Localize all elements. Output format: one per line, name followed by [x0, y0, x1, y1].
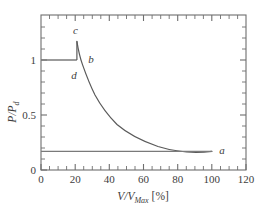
x-tick-label: 20	[70, 173, 82, 185]
chart-canvas: 0 20 40 60 80 100 120 0 0.5 1 c d b a P/…	[0, 0, 261, 206]
x-tick-label: 0	[38, 173, 44, 185]
x-axis-title-unit: [%]	[149, 190, 169, 202]
y-axis-title-sub: d	[12, 100, 21, 105]
x-axis-title-sub: Max	[133, 196, 149, 205]
figure: 0 20 40 60 80 100 120 0 0.5 1 c d b a P/…	[0, 0, 261, 206]
x-tick-labels: 0 20 40 60 80 100 120	[38, 173, 255, 185]
annotation-d: d	[71, 69, 77, 81]
y-tick-label: 0	[31, 164, 37, 176]
x-tick-label: 100	[204, 173, 221, 185]
annotation-b: b	[88, 53, 94, 65]
y-axis-title-main: P/P	[6, 105, 18, 123]
x-tick-label: 40	[104, 173, 116, 185]
annotation-c: c	[73, 24, 78, 36]
x-tick-label: 80	[172, 173, 184, 185]
svg-text:P/Pd: P/Pd	[6, 100, 21, 123]
plot-frame	[41, 15, 246, 170]
y-tick-label: 0.5	[22, 109, 36, 121]
y-tick-label: 1	[31, 54, 37, 66]
x-tick-label: 60	[138, 173, 150, 185]
svg-text:V/VMax [%]: V/VMax [%]	[117, 190, 169, 205]
y-axis-title: P/Pd	[6, 100, 21, 123]
annotation-a: a	[219, 144, 225, 156]
y-tick-labels: 0 0.5 1	[22, 54, 36, 176]
x-tick-label: 120	[238, 173, 255, 185]
x-axis-title: V/VMax [%]	[117, 190, 169, 205]
